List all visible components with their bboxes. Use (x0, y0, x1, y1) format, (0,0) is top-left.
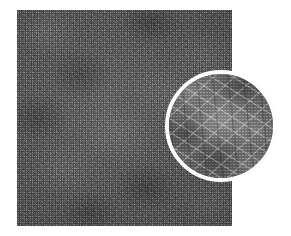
inset-vignette (169, 74, 273, 178)
figure-root (0, 0, 291, 236)
magnified-inset-callout (165, 70, 277, 182)
